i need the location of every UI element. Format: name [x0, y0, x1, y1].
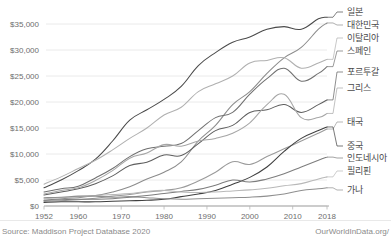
legend-leader-7	[327, 127, 343, 146]
legend-label-2[interactable]: 이탈리아	[347, 33, 380, 43]
y-tick-label: $30,000	[10, 46, 39, 55]
chart-container: $0$5,000$10,000$15,000$20,000$25,000$30,…	[0, 0, 391, 237]
legend-label-10[interactable]: 가나	[347, 185, 363, 195]
legend-label-5[interactable]: 그리스	[347, 83, 371, 93]
gridlines	[46, 24, 327, 206]
y-tick-label: $10,000	[10, 150, 39, 159]
series-lines	[44, 17, 327, 202]
x-axis	[44, 206, 329, 210]
legend-leader-6	[327, 122, 343, 129]
legend-label-4[interactable]: 포르투갈	[347, 67, 379, 77]
legend-leader-3	[327, 51, 343, 67]
legend-leader-0	[327, 12, 343, 17]
y-tick-label: $15,000	[10, 124, 39, 133]
series-line-0[interactable]	[44, 17, 327, 188]
legend-label-9[interactable]: 필리핀	[347, 165, 371, 176]
legend-label-7[interactable]: 중국	[347, 141, 363, 151]
legend-leader-2	[327, 38, 343, 59]
series-line-4[interactable]	[44, 100, 327, 195]
legend-leader-lines	[327, 12, 343, 190]
y-axis-tick-labels: $0$5,000$10,000$15,000$20,000$25,000$30,…	[10, 20, 39, 211]
y-tick-label: $25,000	[10, 72, 39, 81]
legend-label-1[interactable]: 대한민국	[347, 20, 379, 30]
legend-label-0[interactable]: 일본	[347, 7, 363, 17]
y-tick-label: $0	[30, 202, 39, 211]
legend-leader-5	[327, 88, 343, 113]
legend-label-6[interactable]: 태국	[347, 117, 363, 127]
y-tick-label: $35,000	[10, 20, 39, 29]
legend-label-3[interactable]: 스페인	[347, 46, 371, 56]
attribution-link[interactable]: OurWorldInData.org/	[315, 227, 389, 236]
legend-leader-1	[327, 23, 343, 25]
source-note: Source: Maddison Project Database 2020	[2, 227, 150, 236]
footer-divider	[0, 220, 391, 221]
series-line-10[interactable]	[44, 188, 327, 199]
y-tick-label: $20,000	[10, 98, 39, 107]
y-tick-label: $5,000	[15, 176, 40, 185]
legend-leader-10	[327, 188, 343, 190]
legend-labels: 일본대한민국이탈리아스페인포르투갈그리스태국중국인도네시아필리핀가나	[347, 7, 388, 195]
line-chart: $0$5,000$10,000$15,000$20,000$25,000$30,…	[0, 0, 391, 237]
legend-leader-4	[327, 72, 343, 100]
series-line-5[interactable]	[44, 94, 327, 194]
legend-label-8[interactable]: 인도네시아	[347, 153, 388, 163]
legend-leader-9	[327, 171, 343, 177]
legend-leader-8	[327, 157, 343, 158]
